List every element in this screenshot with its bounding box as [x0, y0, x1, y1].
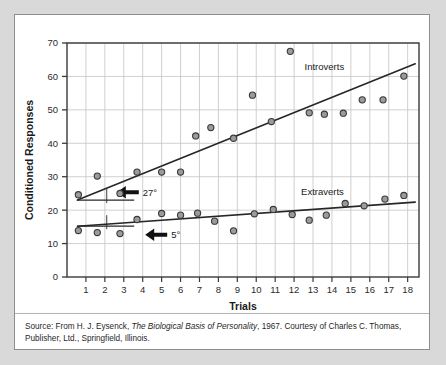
data-point [306, 110, 312, 116]
data-point [117, 230, 123, 236]
data-point [323, 212, 329, 218]
scatter-chart: 0102030405060701234567891011121314151617… [15, 15, 429, 315]
x-tick-label: 9 [235, 284, 240, 295]
x-tick-label: 4 [140, 284, 145, 295]
data-point [159, 169, 165, 175]
series-label-extraverts: Extraverts [301, 186, 344, 197]
x-axis-title: Trials [229, 300, 257, 312]
data-point [159, 210, 165, 216]
x-tick-label: 16 [365, 284, 376, 295]
data-point [75, 192, 81, 198]
angle-label-introverts: 27° [143, 187, 158, 198]
data-point [340, 110, 346, 116]
data-point [249, 92, 255, 98]
data-point [361, 203, 367, 209]
x-tick-label: 5 [159, 284, 164, 295]
data-point [134, 216, 140, 222]
plot-frame [67, 43, 419, 277]
x-tick-label: 18 [402, 284, 413, 295]
data-point [380, 97, 386, 103]
data-point [194, 210, 200, 216]
data-point [208, 124, 214, 130]
x-tick-label: 8 [216, 284, 221, 295]
x-tick-label: 17 [383, 284, 394, 295]
y-tick-label: 10 [47, 238, 58, 249]
x-tick-label: 14 [327, 284, 338, 295]
series-label-introverts: Introverts [305, 61, 345, 72]
data-point [94, 229, 100, 235]
angle-label-extraverts: 5° [171, 229, 180, 240]
y-tick-label: 0 [53, 271, 58, 282]
x-tick-label: 11 [270, 284, 280, 295]
figure-panel: 0102030405060701234567891011121314151617… [14, 14, 430, 350]
caption-source-prefix: Source: From H. J. Eysenck, [25, 322, 131, 331]
data-point [134, 169, 140, 175]
x-tick-label: 1 [83, 284, 88, 295]
data-point [321, 111, 327, 117]
data-point [270, 206, 276, 212]
x-tick-label: 12 [289, 284, 300, 295]
x-tick-label: 6 [178, 284, 183, 295]
y-tick-label: 70 [47, 37, 58, 48]
data-point [177, 169, 183, 175]
y-tick-label: 40 [47, 138, 58, 149]
data-point [94, 173, 100, 179]
data-point [230, 228, 236, 234]
data-point [401, 192, 407, 198]
data-point [359, 97, 365, 103]
data-point [193, 133, 199, 139]
data-point [401, 73, 407, 79]
y-axis-title: Conditioned Responses [23, 100, 35, 220]
caption-work-title: The Biological Basis of Personality [131, 322, 257, 331]
y-tick-label: 30 [47, 171, 58, 182]
trendline-introverts [77, 64, 415, 200]
data-point [268, 118, 274, 124]
x-tick-label: 2 [102, 284, 107, 295]
data-point [75, 227, 81, 233]
x-tick-label: 15 [346, 284, 357, 295]
data-point [382, 196, 388, 202]
figure-caption: Source: From H. J. Eysenck, The Biologic… [15, 313, 429, 345]
angle-arrow-extraverts [145, 228, 167, 241]
y-tick-label: 20 [47, 205, 58, 216]
data-point [289, 211, 295, 217]
y-tick-label: 60 [47, 71, 58, 82]
data-point [306, 217, 312, 223]
x-tick-label: 10 [251, 284, 262, 295]
data-point [230, 135, 236, 141]
x-tick-label: 7 [197, 284, 202, 295]
x-tick-label: 13 [308, 284, 319, 295]
chart-plot-area: 0102030405060701234567891011121314151617… [15, 15, 429, 315]
data-point [251, 211, 257, 217]
x-tick-label: 3 [121, 284, 126, 295]
data-point [287, 48, 293, 54]
data-point [212, 218, 218, 224]
y-tick-label: 50 [47, 104, 58, 115]
data-point [117, 190, 123, 196]
data-point [342, 200, 348, 206]
data-point [177, 212, 183, 218]
